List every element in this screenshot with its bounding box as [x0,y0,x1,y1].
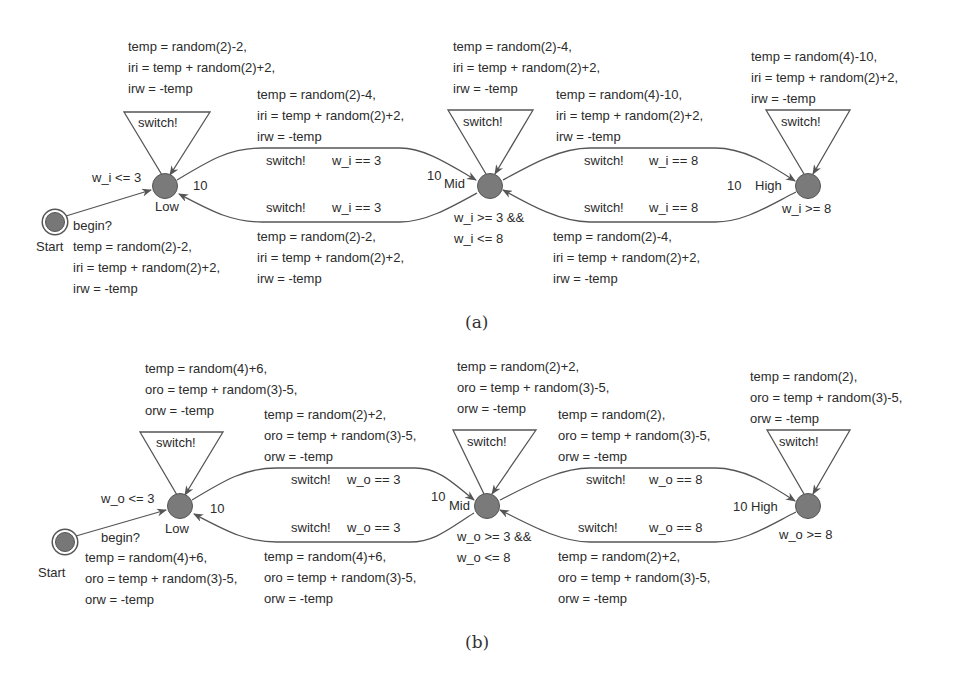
update-start-low-2: oro = temp + random(3)-5, [85,568,237,589]
update-mid-low-1: temp = random(2)-2, [257,226,376,247]
sync-high-self: switch! [781,111,821,132]
update-start-low-2: iri = temp + random(2)+2, [73,257,220,278]
update-low-mid-2: iri = temp + random(2)+2, [257,105,404,126]
guard-mid-high: w_i == 8 [649,150,698,171]
invariant-mid-2: w_o <= 8 [457,547,511,568]
rate-high: 10 [727,175,741,196]
update-high-mid-1: temp = random(2)+2, [558,546,680,567]
rate-low: 10 [210,498,224,519]
invariant-mid-1: w_o >= 3 && [457,526,531,547]
sync-start-low: begin? [101,527,140,548]
update-high-mid-1: temp = random(2)-4, [553,226,672,247]
update-high-self-2: iri = temp + random(2)+2, [751,67,898,88]
location-name-high: High [755,175,782,196]
sync-mid-self: switch! [463,111,503,132]
guard-mid-low: w_i == 3 [332,197,381,218]
update-mid-low-1: temp = random(4)+6, [264,546,386,567]
location-a-high [795,173,821,199]
update-low-self-3: irw = -temp [128,78,193,99]
update-mid-high-1: temp = random(4)-10, [556,84,682,105]
update-mid-high-3: irw = -temp [556,126,621,147]
update-mid-low-3: orw = -temp [264,588,333,609]
location-name-start: Start [38,562,65,583]
location-a-mid [477,173,503,199]
sync-high-mid: switch! [578,517,618,538]
sync-high-mid: switch! [584,197,624,218]
update-mid-low-2: iri = temp + random(2)+2, [257,247,404,268]
sync-mid-low: switch! [266,197,306,218]
sync-mid-self: switch! [467,431,507,452]
invariant-mid-1: w_i >= 3 && [454,207,524,228]
location-name-start: Start [36,236,63,257]
rate-mid: 10 [427,165,441,186]
update-low-mid-3: orw = -temp [264,446,333,467]
location-name-mid: Mid [449,495,470,516]
edge-b-mid-low [194,513,474,542]
sync-mid-high: switch! [586,469,626,490]
update-start-low-3: orw = -temp [85,589,154,610]
invariant-low: w_o <= 3 [101,488,155,509]
sync-low-self: switch! [156,432,196,453]
update-mid-high-1: temp = random(2), [558,404,665,425]
update-mid-self-1: temp = random(2)+2, [457,356,579,377]
location-name-low: Low [155,196,179,217]
guard-mid-low: w_o == 3 [347,517,401,538]
update-mid-high-3: orw = -temp [558,446,627,467]
sync-start-low: begin? [73,215,112,236]
update-start-low-1: temp = random(2)-2, [73,236,192,257]
update-mid-self-1: temp = random(2)-4, [453,36,572,57]
invariant-mid-2: w_i <= 8 [454,228,503,249]
update-mid-low-3: irw = -temp [257,268,322,289]
update-low-self-1: temp = random(4)+6, [145,358,267,379]
location-b-mid [474,493,500,519]
location-name-mid: Mid [444,173,465,194]
update-start-low-3: irw = -temp [73,278,138,299]
update-low-mid-1: temp = random(2)-4, [257,84,376,105]
guard-high-mid: w_o == 8 [649,517,703,538]
update-mid-self-2: oro = temp + random(3)-5, [457,377,609,398]
edge-a-start-low [66,190,151,216]
location-b-low [167,493,193,519]
update-start-low-1: temp = random(4)+6, [85,547,207,568]
update-mid-self-3: irw = -temp [453,78,518,99]
update-low-self-2: oro = temp + random(3)-5, [145,379,297,400]
sync-low-mid: switch! [291,469,331,490]
caption-a: (a) [465,312,488,332]
update-low-mid-2: oro = temp + random(3)-5, [264,425,416,446]
rate-low: 10 [193,175,207,196]
update-high-self-1: temp = random(2), [750,366,857,387]
update-low-mid-1: temp = random(2)+2, [264,404,386,425]
location-name-high: High [751,496,778,517]
update-high-mid-3: irw = -temp [553,268,618,289]
update-high-self-3: orw = -temp [750,408,819,429]
update-high-self-2: oro = temp + random(3)-5, [750,387,902,408]
invariant-high: w_i >= 8 [782,198,831,219]
update-low-self-3: orw = -temp [145,400,214,421]
sync-low-mid: switch! [266,150,306,171]
update-mid-low-2: oro = temp + random(3)-5, [264,567,416,588]
update-low-mid-3: irw = -temp [257,126,322,147]
update-mid-high-2: iri = temp + random(2)+2, [556,105,703,126]
rate-mid: 10 [431,486,445,507]
caption-b: (b) [465,632,489,652]
update-mid-high-2: oro = temp + random(3)-5, [558,425,710,446]
edge-a-mid-low [179,193,477,222]
update-low-self-2: iri = temp + random(2)+2, [128,57,275,78]
update-high-mid-2: oro = temp + random(3)-5, [558,567,710,588]
update-mid-self-3: orw = -temp [457,398,526,419]
update-high-mid-2: iri = temp + random(2)+2, [553,247,700,268]
location-name-low: Low [165,518,189,539]
rate-high: 10 [733,496,747,517]
location-b-high [795,493,821,519]
guard-low-mid: w_o == 3 [347,469,401,490]
guard-low-mid: w_i == 3 [332,150,381,171]
sync-low-self: switch! [138,112,178,133]
location-b-start [55,532,75,552]
invariant-low: w_i <= 3 [92,167,141,188]
update-high-self-3: irw = -temp [751,88,816,109]
sync-mid-high: switch! [584,150,624,171]
update-high-self-1: temp = random(4)-10, [751,46,877,67]
sync-high-self: switch! [779,431,819,452]
update-mid-self-2: iri = temp + random(2)+2, [453,57,600,78]
update-low-self-1: temp = random(2)-2, [128,36,247,57]
